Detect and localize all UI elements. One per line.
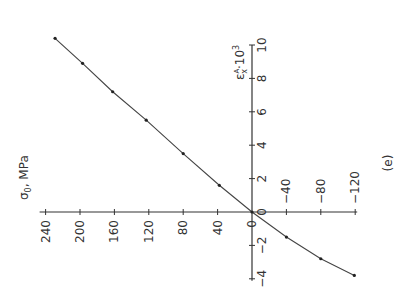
data-point: [285, 235, 288, 238]
data-point: [353, 274, 356, 277]
strain-tick-label: −4: [255, 270, 269, 288]
stress-axis-label: σ0, MPa: [17, 155, 33, 200]
data-point: [53, 37, 56, 40]
strain-tick-label: 4: [255, 141, 269, 149]
strain-axis-label: εAx·103: [232, 45, 249, 80]
data-point: [250, 210, 253, 213]
data-point: [218, 184, 221, 187]
stress-tick-label: −40: [279, 179, 293, 204]
stress-tick-label: 40: [211, 220, 225, 235]
data-point: [182, 152, 185, 155]
strain-tick-label: 10: [255, 37, 269, 52]
strain-tick-label: −2: [255, 237, 269, 255]
stress-tick-label: 160: [107, 220, 121, 243]
stress-tick-label: 80: [176, 220, 190, 235]
strain-tick-label: 2: [255, 175, 269, 183]
stress-tick-label: 0: [245, 220, 259, 228]
data-point: [319, 257, 322, 260]
data-point: [81, 62, 84, 65]
strain-tick-label: 8: [255, 75, 269, 83]
strain-tick-label: 0: [255, 208, 269, 216]
stress-tick-label: −120: [348, 171, 362, 204]
stress-tick-label: 120: [142, 220, 156, 243]
strain-tick-label: 6: [255, 108, 269, 116]
stress-tick-label: 200: [73, 220, 87, 243]
data-line: [55, 38, 354, 275]
stress-tick-label: −80: [314, 179, 328, 204]
data-point: [111, 90, 114, 93]
panel-label: (e): [381, 155, 395, 172]
stress-strain-chart: −120−80−4004080120160200240−4−20246810σ0…: [0, 0, 407, 294]
data-point: [145, 119, 148, 122]
stress-tick-label: 240: [39, 220, 53, 243]
